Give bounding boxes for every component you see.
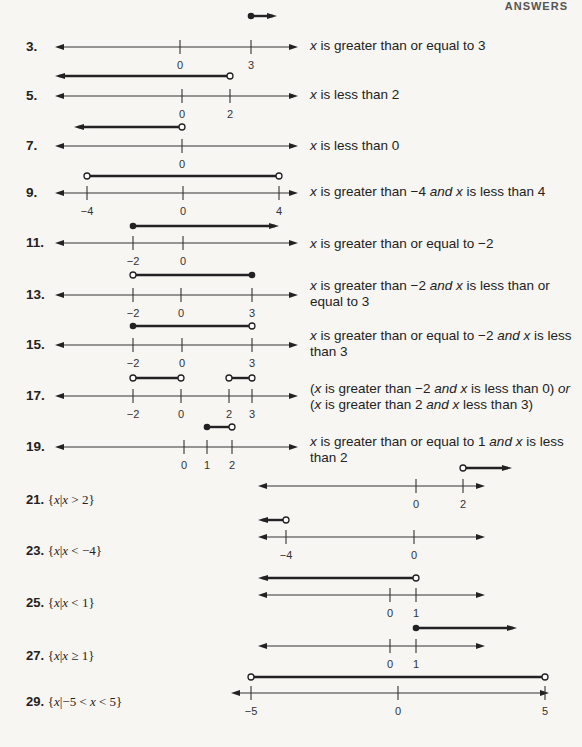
closed-endpoint [249, 272, 256, 279]
problem-description: x is greater than or equal to 1 and x is… [310, 434, 572, 466]
tick-label: 0 [411, 549, 417, 561]
number-line-axis: −404 [55, 186, 298, 217]
problem-27: 01 [258, 625, 517, 670]
tick-label: 0 [179, 158, 185, 170]
number-line-axis: 01 [258, 639, 485, 670]
open-endpoint [130, 272, 136, 278]
tick-label: −4 [81, 205, 94, 217]
problem-description: x is greater than or equal to −2 and x i… [310, 328, 572, 360]
open-endpoint [226, 375, 232, 381]
problem-25: 01 [258, 575, 485, 619]
solution-graph [258, 575, 419, 581]
closed-endpoint [130, 223, 137, 230]
number-line-axis: −203 [55, 338, 298, 369]
set-notation-label: 21. {x|x > 2} [26, 492, 95, 508]
problem-7: 0 [55, 124, 298, 170]
number-line-axis: −2023 [55, 389, 298, 420]
problem-15: −203 [55, 323, 298, 369]
open-endpoint [283, 517, 289, 523]
tick-label: 0 [387, 658, 393, 670]
solution-graph [130, 223, 279, 230]
tick-label: 3 [249, 357, 255, 369]
tick-label: 0 [387, 607, 393, 619]
tick-label: −2 [127, 307, 140, 319]
solution-graph [130, 323, 255, 330]
open-endpoint [413, 575, 419, 581]
number-lines-canvas: 03020−404−20−203−203−202301202−400101−50… [0, 0, 582, 747]
problem-number: 13. [26, 287, 45, 303]
solution-graph [74, 124, 185, 130]
problem-description: x is greater than or equal to 3 [310, 38, 572, 54]
problem-13: −203 [55, 272, 298, 319]
number-line-axis: 03 [55, 40, 298, 71]
problem-number: 5. [26, 88, 37, 104]
problem-19: 012 [55, 424, 298, 471]
problem-number: 15. [26, 337, 45, 353]
closed-endpoint [130, 323, 137, 330]
tick-label: 0 [179, 108, 185, 120]
tick-label: −4 [280, 549, 293, 561]
problem-description: x is less than 2 [310, 87, 572, 103]
set-notation: {x|−5 < x < 5} [48, 694, 123, 709]
number-line-axis: 01 [258, 588, 485, 619]
number-line-axis: −40 [258, 530, 485, 561]
tick-label: 0 [178, 307, 184, 319]
problem-number: 11. [26, 235, 44, 251]
problem-number: 27. [26, 648, 48, 663]
tick-label: 0 [178, 408, 184, 420]
problem-number: 25. [26, 595, 48, 610]
tick-label: 2 [226, 408, 232, 420]
tick-label: 4 [276, 205, 282, 217]
open-endpoint [179, 124, 185, 130]
solution-graph [130, 375, 255, 381]
solution-graph [130, 272, 255, 279]
problem-number: 17. [26, 388, 45, 404]
solution-graph [248, 13, 277, 20]
set-notation-label: 29. {x|−5 < x < 5} [26, 694, 122, 710]
problem-17: −2023 [55, 375, 298, 420]
set-notation: {x|x ≥ 1} [48, 648, 95, 663]
tick-label: −2 [127, 255, 140, 267]
set-notation-label: 27. {x|x ≥ 1} [26, 648, 94, 664]
problem-description: (x is greater than −2 and x is less than… [310, 381, 572, 413]
open-endpoint [249, 375, 255, 381]
open-endpoint [542, 674, 548, 680]
solution-graph [204, 424, 235, 431]
tick-label: 0 [179, 357, 185, 369]
tick-label: 0 [180, 255, 186, 267]
problem-number: 21. [26, 492, 48, 507]
open-endpoint [249, 323, 255, 329]
problem-description: x is greater than or equal to −2 [310, 236, 572, 252]
number-line-axis: 02 [55, 89, 298, 120]
number-line-axis: −20 [55, 236, 298, 267]
solution-graph [84, 173, 282, 179]
closed-endpoint [204, 424, 211, 431]
closed-endpoint [248, 13, 255, 20]
number-line-axis: −203 [55, 288, 298, 319]
solution-graph [248, 674, 548, 680]
problem-29: −505 [231, 674, 549, 717]
number-line-axis: 012 [55, 440, 298, 471]
problem-5: 02 [55, 73, 298, 120]
problem-number: 3. [26, 39, 37, 55]
tick-label: −5 [245, 705, 258, 717]
open-endpoint [84, 173, 90, 179]
tick-label: 1 [413, 607, 419, 619]
tick-label: 1 [204, 459, 210, 471]
tick-label: −2 [127, 357, 140, 369]
open-endpoint [130, 375, 136, 381]
tick-label: −2 [127, 408, 140, 420]
problem-number: 29. [26, 694, 48, 709]
open-endpoint [229, 424, 235, 430]
open-endpoint [227, 73, 233, 79]
set-notation-label: 25. {x|x < 1} [26, 595, 95, 611]
tick-label: 0 [177, 59, 183, 71]
tick-label: 0 [413, 498, 419, 510]
tick-label: 3 [249, 408, 255, 420]
tick-label: 0 [181, 459, 187, 471]
set-notation: {x|x < −4} [48, 543, 102, 558]
set-notation: {x|x < 1} [48, 595, 95, 610]
tick-label: 1 [413, 658, 419, 670]
problem-3: 03 [55, 13, 298, 71]
set-notation: {x|x > 2} [48, 492, 95, 507]
